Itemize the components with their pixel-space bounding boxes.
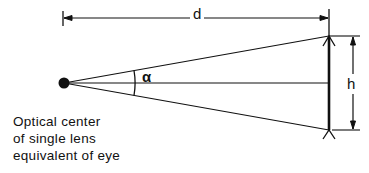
arrow-up-icon — [351, 37, 356, 45]
object-tail-icon — [323, 130, 335, 139]
caption-line: equivalent of eye — [13, 147, 120, 164]
arrow-right-icon — [320, 16, 328, 21]
height-dimension — [329, 36, 360, 130]
angle-label: α — [142, 69, 151, 85]
upper-sight-line — [64, 36, 329, 83]
object-arrow — [323, 36, 335, 139]
height-label: h — [347, 74, 355, 94]
arrow-left-icon — [64, 16, 72, 21]
caption-line: Optical center — [13, 113, 120, 130]
arrow-down-icon — [351, 121, 356, 129]
optical-center-caption: Optical center of single lens equivalent… — [13, 113, 120, 164]
optical-center-dot — [59, 78, 70, 89]
distance-label: d — [190, 5, 204, 23]
caption-line: of single lens — [13, 130, 120, 147]
